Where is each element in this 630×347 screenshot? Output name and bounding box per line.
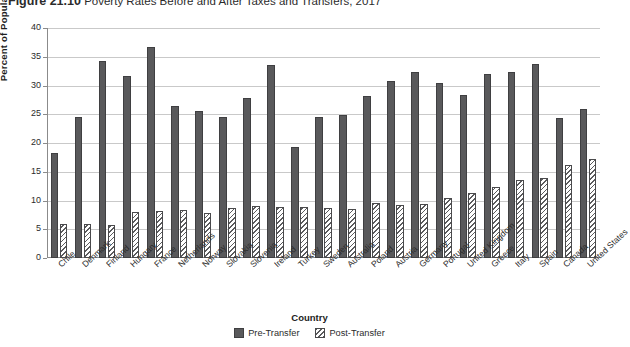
legend-label: Post-Transfer [329, 328, 384, 338]
y-axis-title: Percent of Population [0, 0, 9, 95]
bar-pre-transfer[interactable] [315, 117, 323, 258]
bar-pre-transfer[interactable] [580, 109, 588, 259]
bar-group [480, 28, 504, 258]
bar-group [71, 28, 95, 258]
y-axis-tick-label: 25 [15, 108, 41, 118]
bar-post-transfer[interactable] [565, 165, 573, 258]
y-axis-tick-label: 40 [15, 22, 41, 32]
bar-group [384, 28, 408, 258]
bar-group [215, 28, 239, 258]
legend-swatch-pre-transfer [234, 328, 244, 338]
bar-post-transfer[interactable] [276, 207, 284, 258]
bar-group [119, 28, 143, 258]
bar-group [287, 28, 311, 258]
legend-item[interactable]: Post-Transfer [315, 328, 384, 338]
bar-group [528, 28, 552, 258]
bar-pre-transfer[interactable] [532, 64, 540, 258]
bar-series-container [47, 28, 600, 258]
bar-post-transfer[interactable] [324, 208, 332, 258]
chart-legend: Pre-TransferPost-Transfer [0, 328, 619, 338]
bar-group [456, 28, 480, 258]
bar-pre-transfer[interactable] [243, 98, 251, 258]
bar-pre-transfer[interactable] [123, 76, 131, 258]
y-axis-tick-label: 0 [15, 252, 41, 262]
y-axis-tick-label: 15 [15, 166, 41, 176]
y-axis-tick-label: 30 [15, 80, 41, 90]
legend-item[interactable]: Pre-Transfer [234, 328, 299, 338]
bar-post-transfer[interactable] [420, 204, 428, 258]
y-axis-tick-label: 5 [15, 223, 41, 233]
bar-group [576, 28, 600, 258]
bar-pre-transfer[interactable] [51, 153, 59, 258]
bar-group [95, 28, 119, 258]
bar-group [167, 28, 191, 258]
bar-group [191, 28, 215, 258]
bar-pre-transfer[interactable] [484, 74, 492, 258]
legend-label: Pre-Transfer [248, 328, 299, 338]
bar-post-transfer[interactable] [589, 159, 597, 258]
bar-pre-transfer[interactable] [267, 65, 275, 258]
bar-pre-transfer[interactable] [75, 117, 83, 258]
y-axis-tick-label: 10 [15, 195, 41, 205]
bar-pre-transfer[interactable] [339, 115, 347, 258]
bar-post-transfer[interactable] [516, 180, 524, 258]
bar-pre-transfer[interactable] [291, 147, 299, 258]
bar-group [360, 28, 384, 258]
bar-group [432, 28, 456, 258]
bar-group [47, 28, 71, 258]
bar-post-transfer[interactable] [372, 203, 380, 258]
y-axis-tick-label: 20 [15, 137, 41, 147]
x-axis-title: Country [0, 312, 619, 323]
bar-post-transfer[interactable] [396, 205, 404, 258]
bar-pre-transfer[interactable] [171, 106, 179, 258]
bar-pre-transfer[interactable] [363, 96, 371, 258]
bar-pre-transfer[interactable] [436, 83, 444, 258]
y-axis-tick-mark [43, 258, 47, 259]
bar-group [552, 28, 576, 258]
bar-pre-transfer[interactable] [195, 111, 203, 258]
bar-pre-transfer[interactable] [99, 61, 107, 258]
legend-swatch-post-transfer [315, 328, 325, 338]
bar-group [239, 28, 263, 258]
bar-post-transfer[interactable] [540, 178, 548, 258]
bar-pre-transfer[interactable] [387, 81, 395, 258]
bar-pre-transfer[interactable] [460, 95, 468, 258]
y-axis-tick-label: 35 [15, 51, 41, 61]
bar-group [336, 28, 360, 258]
bar-group [263, 28, 287, 258]
bar-post-transfer[interactable] [252, 206, 260, 258]
bar-group [408, 28, 432, 258]
bar-post-transfer[interactable] [348, 209, 356, 258]
bar-pre-transfer[interactable] [219, 117, 227, 258]
bar-pre-transfer[interactable] [411, 72, 419, 258]
bar-pre-transfer[interactable] [556, 118, 564, 258]
bar-group [311, 28, 335, 258]
bar-group [143, 28, 167, 258]
bar-pre-transfer[interactable] [147, 47, 155, 258]
